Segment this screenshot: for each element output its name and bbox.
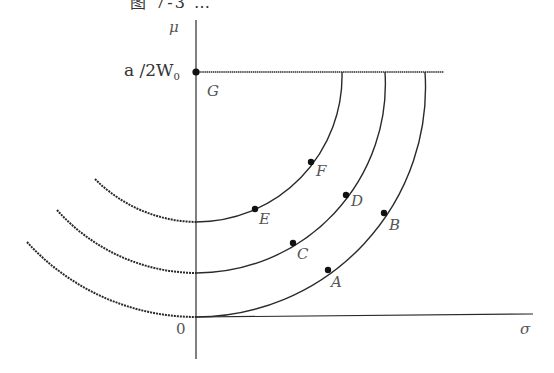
label-g: G — [207, 84, 219, 99]
point-d — [343, 192, 349, 198]
label-a: A — [331, 275, 342, 290]
y-tick-sub: 0 — [174, 71, 180, 82]
y-axis-label: μ — [169, 20, 179, 35]
label-b: B — [389, 218, 400, 233]
label-c: C — [297, 247, 308, 262]
origin-label: 0 — [176, 322, 186, 337]
point-g — [192, 68, 199, 75]
x-axis — [196, 314, 533, 317]
x-axis-label: σ — [520, 322, 530, 337]
point-c — [290, 240, 296, 246]
diagram-canvas — [0, 0, 554, 373]
label-e: E — [259, 212, 270, 227]
point-e — [252, 206, 258, 212]
label-f: F — [316, 164, 326, 179]
outer-arc-solid — [196, 72, 426, 317]
inner-arc-dashed — [95, 179, 196, 222]
label-d: D — [351, 194, 363, 209]
point-f — [308, 159, 314, 165]
y-tick-label: a /2W0 — [124, 60, 180, 82]
outer-arc-dashed — [27, 242, 196, 317]
y-tick-main: a /2W — [124, 60, 174, 80]
point-b — [381, 210, 387, 216]
